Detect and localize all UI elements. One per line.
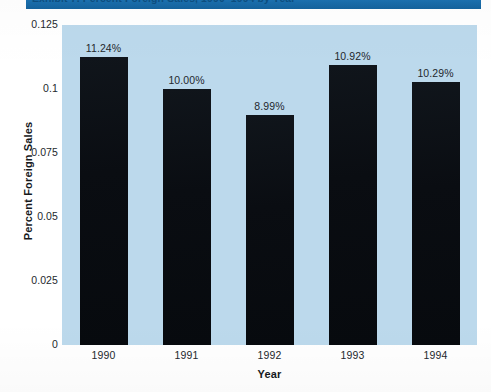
y-axis-tick: 0.1 <box>4 82 58 94</box>
x-axis-tick: 1992 <box>235 349 305 361</box>
bar <box>412 82 460 345</box>
y-axis: Percent Foreign Sales 00.0250.050.0750.1… <box>0 25 58 345</box>
chart-title: Exhibit 7. Percent Foreign Sales, 1990–1… <box>32 0 295 5</box>
x-axis-tick: 1994 <box>401 349 471 361</box>
bar-value-label: 10.29% <box>392 67 480 79</box>
bar-value-label: 8.99% <box>226 100 314 112</box>
x-axis-label: Year <box>62 368 477 380</box>
bar-value-label: 11.24% <box>60 42 148 54</box>
y-axis-tick: 0.05 <box>4 210 58 222</box>
x-axis-tick: 1990 <box>69 349 139 361</box>
y-axis-label: Percent Foreign Sales <box>22 101 34 261</box>
bar-chart-figure: Exhibit 7. Percent Foreign Sales, 1990–1… <box>0 0 491 392</box>
y-axis-tick: 0 <box>4 338 58 350</box>
plot-inner: 11.24%10.00%8.99%10.92%10.29% <box>62 25 477 345</box>
bar-value-label: 10.92% <box>309 50 397 62</box>
bar <box>246 115 294 345</box>
y-axis-tick: 0.025 <box>4 274 58 286</box>
bar <box>163 89 211 345</box>
y-axis-tick: 0.075 <box>4 146 58 158</box>
x-axis-tick: 1993 <box>318 349 388 361</box>
x-axis-tick: 1991 <box>152 349 222 361</box>
y-axis-tick: 0.125 <box>4 18 58 30</box>
chart-title-banner: Exhibit 7. Percent Foreign Sales, 1990–1… <box>26 0 481 9</box>
bar-value-label: 10.00% <box>143 74 231 86</box>
plot-area: 11.24%10.00%8.99%10.92%10.29% <box>62 25 477 345</box>
x-axis: 19901991199219931994 <box>62 349 477 365</box>
bar <box>80 57 128 345</box>
bar <box>329 65 377 345</box>
